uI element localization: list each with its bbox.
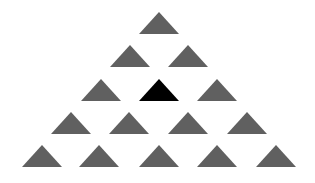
triangle-icon — [256, 145, 296, 167]
triangle-icon — [197, 79, 237, 101]
triangle-icon — [110, 45, 150, 67]
triangle-icon — [109, 112, 149, 134]
triangle-icon — [168, 112, 208, 134]
triangle-icon — [168, 45, 208, 67]
triangle-icon — [79, 145, 119, 167]
triangle-icon — [22, 145, 62, 167]
triangle-icon — [139, 12, 179, 34]
triangle-icon — [139, 145, 179, 167]
triangle-icon — [51, 112, 91, 134]
triangle-pyramid-diagram — [0, 0, 315, 183]
triangle-icon — [227, 112, 267, 134]
triangle-icon-highlighted — [139, 79, 179, 101]
triangle-icon — [81, 79, 121, 101]
triangle-icon — [197, 145, 237, 167]
pyramid-canvas — [0, 0, 315, 183]
